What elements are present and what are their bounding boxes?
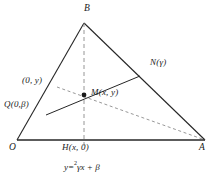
- point-label-m: M(x, y): [91, 88, 118, 97]
- vertex-label-a: A: [199, 143, 205, 153]
- geometry-figure: B O A N(γ) M(x, y) (0, y) Q(0,β) H(x, 0)…: [0, 0, 217, 179]
- side-BA: [84, 23, 205, 140]
- equation-rhs: γx + β: [77, 162, 100, 172]
- vertex-label-o: O: [9, 143, 16, 153]
- point-label-n: N(γ): [150, 58, 166, 67]
- point-label-q: Q(0,β): [4, 100, 29, 109]
- point-label-p: (0, y): [22, 76, 42, 85]
- equation-caption: y=2γx + β: [64, 161, 100, 172]
- dashed-line-PA: [57, 87, 205, 140]
- equation-exponent: 2: [74, 160, 77, 166]
- point-marker-M: [82, 93, 87, 98]
- vertex-label-b: B: [84, 4, 90, 14]
- point-label-h: H(x, 0): [62, 143, 89, 152]
